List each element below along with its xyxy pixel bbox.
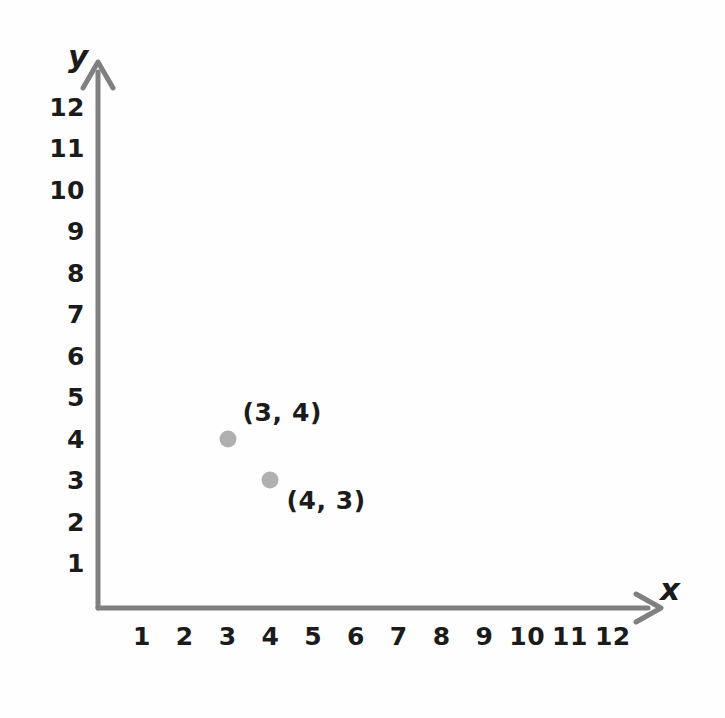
x-tick-label: 11	[552, 622, 588, 651]
data-point-label: (3, 4)	[243, 398, 322, 427]
y-tick-label: 2	[67, 507, 85, 536]
x-tick-label: 9	[475, 622, 493, 651]
data-point-label: (4, 3)	[286, 486, 365, 515]
x-tick-label: 7	[390, 622, 408, 651]
y-tick-label: 5	[67, 383, 85, 412]
x-tick-label: 6	[347, 622, 365, 651]
y-tick-label: 10	[49, 175, 85, 204]
y-tick-label: 3	[67, 466, 85, 495]
x-tick-label: 4	[261, 622, 279, 651]
x-tick-label: 5	[304, 622, 322, 651]
x-tick-label: 8	[433, 622, 451, 651]
y-tick-label: 11	[49, 134, 85, 163]
data-point	[219, 430, 236, 447]
y-axis-label: y	[68, 38, 89, 74]
y-tick-label: 4	[67, 424, 85, 453]
y-tick-label: 7	[67, 300, 85, 329]
data-point	[262, 472, 279, 489]
y-tick-label: 9	[67, 217, 85, 246]
y-tick-label: 12	[49, 92, 85, 121]
x-tick-label: 2	[176, 622, 194, 651]
y-tick-label: 8	[67, 258, 85, 287]
x-tick-label: 12	[595, 622, 631, 651]
coordinate-plane-figure: y x 123456789101112 123456789101112 (3, …	[0, 0, 725, 718]
x-tick-label: 1	[133, 622, 151, 651]
y-tick-label: 1	[67, 549, 85, 578]
x-axis-label: x	[660, 571, 681, 607]
x-tick-label: 10	[509, 622, 545, 651]
y-tick-label: 6	[67, 341, 85, 370]
x-tick-label: 3	[219, 622, 237, 651]
axes-svg	[0, 0, 725, 718]
